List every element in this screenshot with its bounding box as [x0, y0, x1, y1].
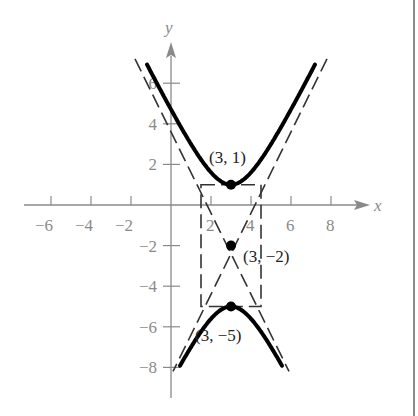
y-tick-label: 2	[149, 155, 158, 174]
x-tick-label: 2	[206, 216, 215, 235]
y-tick-label: −4	[139, 277, 158, 296]
y-tick-label: −8	[139, 358, 157, 377]
x-axis-label: x	[373, 196, 382, 215]
x-tick-label: −2	[115, 216, 133, 235]
x-tick-label: −4	[75, 216, 94, 235]
x-tick-label: 6	[286, 216, 295, 235]
y-tick-label: −2	[139, 237, 157, 256]
y-tick-label: −6	[139, 318, 157, 337]
x-tick-label: 8	[326, 216, 335, 235]
point-marker	[226, 302, 236, 312]
hyperbola-plot: xy−6−4−22468642−2−4−6−8 (3, 1)(3, −2)(3,…	[0, 0, 418, 416]
point-marker	[226, 180, 236, 190]
y-axis-label: y	[163, 18, 173, 37]
point-label: (3, 1)	[209, 148, 246, 167]
y-axis-arrow-icon	[166, 42, 176, 58]
points: (3, 1)(3, −2)(3, −5)	[195, 148, 289, 345]
x-tick-label: −6	[35, 216, 53, 235]
y-tick-label: 4	[149, 115, 158, 134]
point-marker	[226, 241, 236, 251]
x-tick-label: 4	[246, 216, 255, 235]
point-label: (3, −2)	[243, 247, 289, 266]
point-label: (3, −5)	[195, 326, 241, 345]
